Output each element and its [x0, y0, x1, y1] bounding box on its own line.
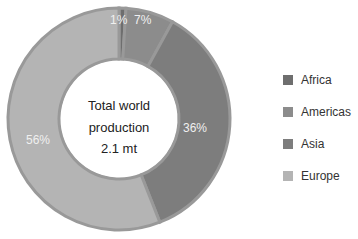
legend-item-europe: Europe	[283, 169, 340, 183]
center-label-line2: production	[59, 120, 179, 135]
africa-swatch	[283, 75, 293, 85]
legend-label-asia: Asia	[301, 137, 324, 151]
africa-percent-label: 1%	[110, 13, 127, 27]
legend-item-asia: Asia	[283, 137, 324, 151]
europe-swatch	[283, 171, 293, 181]
americas-percent-label: 7%	[134, 13, 151, 27]
legend-label-americas: Americas	[301, 105, 351, 119]
center-label-line1: Total world	[59, 98, 179, 113]
legend-label-europe: Europe	[301, 169, 340, 183]
europe-percent-label: 56%	[26, 133, 50, 147]
center-label-line3: 2.1 mt	[59, 141, 179, 156]
asia-swatch	[283, 139, 293, 149]
asia-percent-label: 36%	[183, 121, 207, 135]
legend-item-americas: Americas	[283, 105, 351, 119]
americas-swatch	[283, 107, 293, 117]
donut-hole	[61, 61, 177, 177]
legend-item-africa: Africa	[283, 73, 332, 87]
legend-label-africa: Africa	[301, 73, 332, 87]
